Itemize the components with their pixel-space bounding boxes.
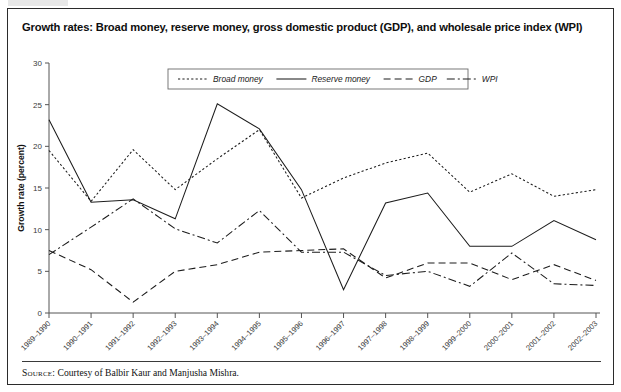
chart-legend[interactable]: Broad moneyReserve moneyGDPWPI — [168, 69, 498, 89]
figure-number-strip — [8, 0, 68, 6]
legend-label-gdp[interactable]: GDP — [419, 74, 438, 84]
x-tick-label: 1990–1991 — [61, 319, 94, 352]
growth-rates-line-chart: 051015202530 1989–19901990–19911991–1992… — [8, 9, 615, 386]
x-tick-label: 1999–2000 — [440, 319, 473, 352]
y-tick-label: 10 — [33, 226, 42, 235]
x-tick-label: 1998–1999 — [398, 319, 431, 352]
y-tick-label: 25 — [33, 101, 42, 110]
legend-label-reserve-money[interactable]: Reserve money — [311, 74, 370, 84]
source-text: Courtesy of Balbir Kaur and Manjusha Mis… — [58, 367, 239, 378]
source-note: Source: Courtesy of Balbir Kaur and Manj… — [22, 367, 602, 378]
y-axis-title-text: Growth rate (percent) — [16, 144, 26, 232]
legend-label-wpi[interactable]: WPI — [482, 74, 498, 84]
x-tick-label: 1996–1997 — [314, 319, 347, 352]
x-tick-label: 1993–1994 — [187, 319, 220, 352]
data-series-group — [49, 104, 596, 302]
y-tick-label: 0 — [38, 309, 43, 318]
legend-label-broad-money[interactable]: Broad money — [213, 74, 264, 84]
x-tick-label: 1989–1990 — [19, 319, 52, 352]
figure-page: Growth rates: Broad money, reserve money… — [0, 0, 621, 392]
y-tick-label: 20 — [33, 142, 42, 151]
x-tick-label: 1995–1996 — [272, 319, 305, 352]
source-divider — [22, 361, 601, 362]
y-tick-label: 15 — [33, 184, 42, 193]
x-axis: 1989–19901990–19911991–19921992–19931993… — [19, 313, 600, 352]
y-axis-title: Growth rate (percent) — [16, 144, 26, 232]
x-tick-label: 2001–2002 — [524, 319, 557, 352]
series-line-reserve-money — [49, 104, 596, 290]
x-tick-label: 2000–2001 — [482, 319, 515, 352]
x-tick-label: 1994–1995 — [230, 319, 263, 352]
x-tick-label: 1997–1998 — [356, 319, 389, 352]
y-tick-label: 30 — [33, 59, 42, 68]
y-tick-label: 5 — [38, 267, 43, 276]
y-axis: 051015202530 — [33, 59, 49, 318]
x-tick-label: 1992–1993 — [145, 319, 178, 352]
series-line-broad-money — [49, 130, 596, 202]
source-label: Source: — [22, 367, 55, 378]
x-tick-label: 1991–1992 — [103, 319, 136, 352]
series-line-wpi — [49, 199, 596, 287]
figure-frame: Growth rates: Broad money, reserve money… — [7, 8, 614, 385]
x-tick-label: 2002–2003 — [566, 319, 599, 352]
series-line-gdp — [49, 249, 596, 302]
chart-plot-area: 051015202530 1989–19901990–19911991–1992… — [8, 9, 615, 386]
